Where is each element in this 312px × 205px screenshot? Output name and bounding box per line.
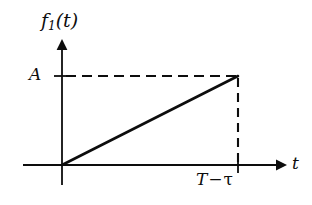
ramp-signal-line — [62, 76, 238, 165]
y-tick-label-amplitude: A — [29, 66, 41, 83]
y-axis-label-subscript: 1 — [48, 19, 56, 33]
y-axis-label-base: f — [41, 9, 48, 31]
y-axis-arrowhead — [57, 39, 68, 50]
x-tick-label-operator: − — [207, 169, 223, 189]
y-axis-label: f1(t) — [41, 11, 78, 32]
x-tick-label-t-minus-tau: T−τ — [196, 171, 233, 188]
x-axis-label: t — [292, 155, 299, 172]
x-tick-label-symbol: T — [196, 169, 207, 189]
x-axis-arrowhead — [276, 160, 287, 171]
x-tick-label-tau: τ — [224, 169, 233, 189]
ramp-function-figure: f1(t) A t T−τ — [0, 0, 312, 205]
y-axis-label-argument: (t) — [56, 9, 78, 31]
